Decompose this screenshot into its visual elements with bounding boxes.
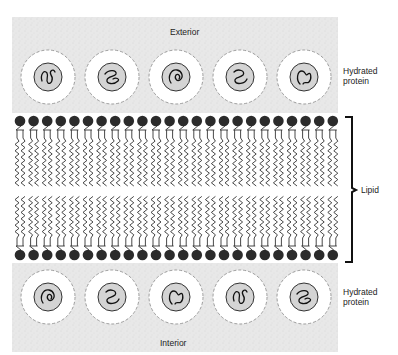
lipid-bracket (345, 117, 356, 262)
hydrated-protein (149, 50, 203, 104)
bottom-hydrated-protein-label: Hydrated protein (343, 287, 393, 307)
top-protein-label-text: Hydrated protein (343, 66, 378, 86)
hydrated-protein (277, 270, 331, 324)
hydrated-protein (85, 270, 139, 324)
hydrated-protein (149, 270, 203, 324)
exterior-label: Exterior (170, 27, 199, 37)
hydrated-protein (85, 50, 139, 104)
top-hydrated-protein-label: Hydrated protein (343, 66, 393, 86)
bottom-protein-label-text: Hydrated protein (343, 287, 378, 307)
hydrated-protein (21, 270, 75, 324)
hydrated-protein (213, 270, 267, 324)
membrane-diagram (0, 0, 398, 355)
lipid-label: Lipid (361, 185, 379, 195)
hydrated-protein (213, 50, 267, 104)
hydrated-protein (277, 50, 331, 104)
interior-label: Interior (160, 338, 186, 348)
hydrated-protein (21, 50, 75, 104)
